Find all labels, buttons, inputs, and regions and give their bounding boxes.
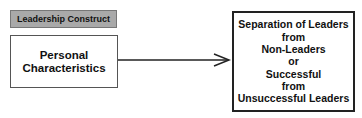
personal-characteristics-box: Personal Characteristics bbox=[10, 35, 118, 88]
source-line: Personal bbox=[40, 49, 89, 62]
target-line: or bbox=[288, 55, 299, 67]
separation-outcome-box: Separation of Leaders from Non-Leaders o… bbox=[232, 11, 355, 112]
arrow-right-icon bbox=[118, 53, 232, 69]
target-line: from bbox=[282, 80, 305, 92]
target-line: Separation of Leaders bbox=[238, 18, 348, 30]
target-line: Non-Leaders bbox=[261, 43, 325, 55]
construct-label-text: Leadership Construct bbox=[17, 14, 110, 24]
source-line: Characteristics bbox=[22, 62, 105, 75]
target-line: Successful bbox=[266, 68, 321, 80]
leadership-construct-label: Leadership Construct bbox=[10, 10, 117, 28]
target-line: from bbox=[282, 31, 305, 43]
target-line: Unsuccessful Leaders bbox=[238, 92, 349, 104]
